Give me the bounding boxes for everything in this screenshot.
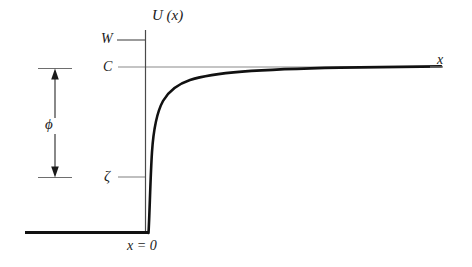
fermi-level-label: ζ <box>104 169 110 184</box>
work-function-arrow <box>38 69 72 178</box>
function-arg: (x) <box>167 7 184 23</box>
work-function-down-arrowhead <box>51 167 59 178</box>
function-label: U (x) <box>152 8 183 23</box>
x-axis-label: x <box>437 53 443 67</box>
origin-label: x = 0 <box>127 239 157 253</box>
top-level-label: W <box>101 32 113 46</box>
figure-canvas <box>0 0 472 267</box>
asymptote-level-label: C <box>103 60 112 74</box>
potential-curve <box>149 66 442 233</box>
function-name: U <box>152 7 163 23</box>
potential-energy-figure: U (x) W C ϕ ζ x x = 0 <box>0 0 472 267</box>
work-function-label: ϕ <box>45 117 53 132</box>
work-function-up-arrowhead <box>51 69 59 80</box>
